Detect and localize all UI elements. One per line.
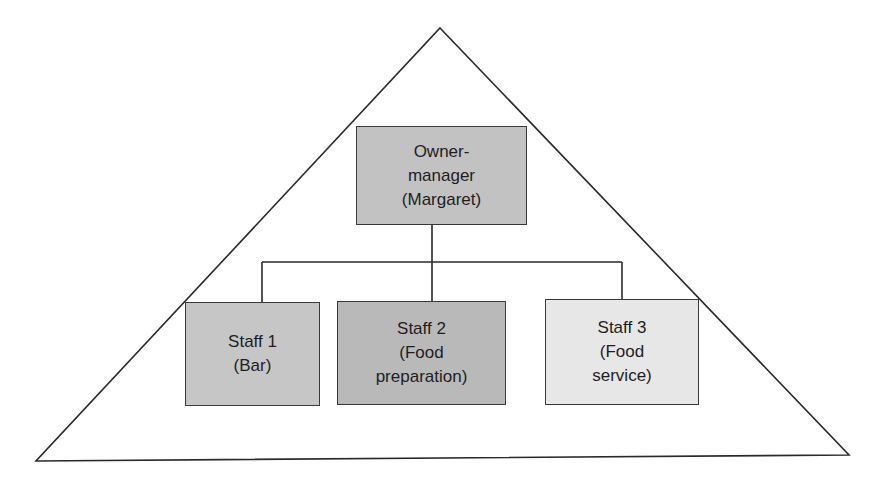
staff-2-box: Staff 2 (Food preparation) bbox=[337, 301, 506, 405]
staff-2-label: Staff 2 (Food preparation) bbox=[376, 317, 468, 389]
owner-manager-label: Owner- manager (Margaret) bbox=[402, 140, 481, 212]
owner-manager-box: Owner- manager (Margaret) bbox=[356, 126, 527, 225]
staff-1-label: Staff 1 (Bar) bbox=[228, 330, 277, 378]
diagram-lines bbox=[0, 0, 879, 480]
staff-1-box: Staff 1 (Bar) bbox=[185, 302, 320, 406]
staff-3-box: Staff 3 (Food service) bbox=[545, 299, 699, 405]
staff-3-label: Staff 3 (Food service) bbox=[592, 316, 652, 388]
